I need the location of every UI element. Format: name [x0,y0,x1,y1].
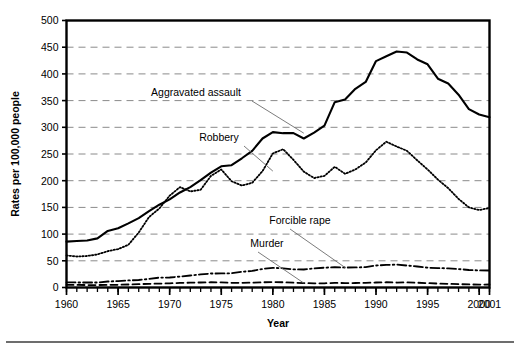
x-axis-tick-label: 1990 [364,298,388,310]
y-axis-tick-label: 250 [41,148,59,160]
y-axis-tick-label: 0 [53,281,59,293]
x-axis-tick-label: 1995 [416,298,440,310]
annotation-label-murder: Murder [250,237,284,249]
y-axis-title: Rates per 100,000 people [9,91,21,217]
x-axis-title: Year [267,317,289,329]
x-axis-tick-labels: 1960196519701975198019851990199520002001 [55,298,502,310]
crime-rate-line-chart: 050100150200250300350400450500 196019651… [0,0,520,348]
y-axis-tick-label: 350 [41,95,59,107]
y-axis-tick-label: 300 [41,121,59,133]
x-axis-tick-label: 1965 [106,298,130,310]
x-axis-tick-label: 1960 [55,298,79,310]
x-axis-tick-label: 2001 [478,298,502,310]
y-axis-tick-label: 150 [41,201,59,213]
annotation-label-robbery: Robbery [199,131,239,143]
x-axis-tick-label: 1985 [313,298,337,310]
footer-divider-rule [6,341,514,343]
y-axis-tick-label: 100 [41,228,59,240]
y-axis-tick-label: 200 [41,175,59,187]
x-axis-tick-label: 1970 [158,298,182,310]
y-axis-tick-label: 450 [41,41,59,53]
annotation-label-forcible-rape: Forcible rape [269,214,330,226]
y-axis-tick-label: 500 [41,14,59,26]
y-axis-tick-label: 400 [41,68,59,80]
y-axis-tick-label: 50 [47,255,59,267]
chart-canvas: 050100150200250300350400450500 196019651… [0,0,520,348]
x-axis-tick-label: 1975 [210,298,234,310]
x-axis-tick-label: 1980 [261,298,285,310]
annotation-label-aggravated-assault: Aggravated assault [151,86,241,98]
